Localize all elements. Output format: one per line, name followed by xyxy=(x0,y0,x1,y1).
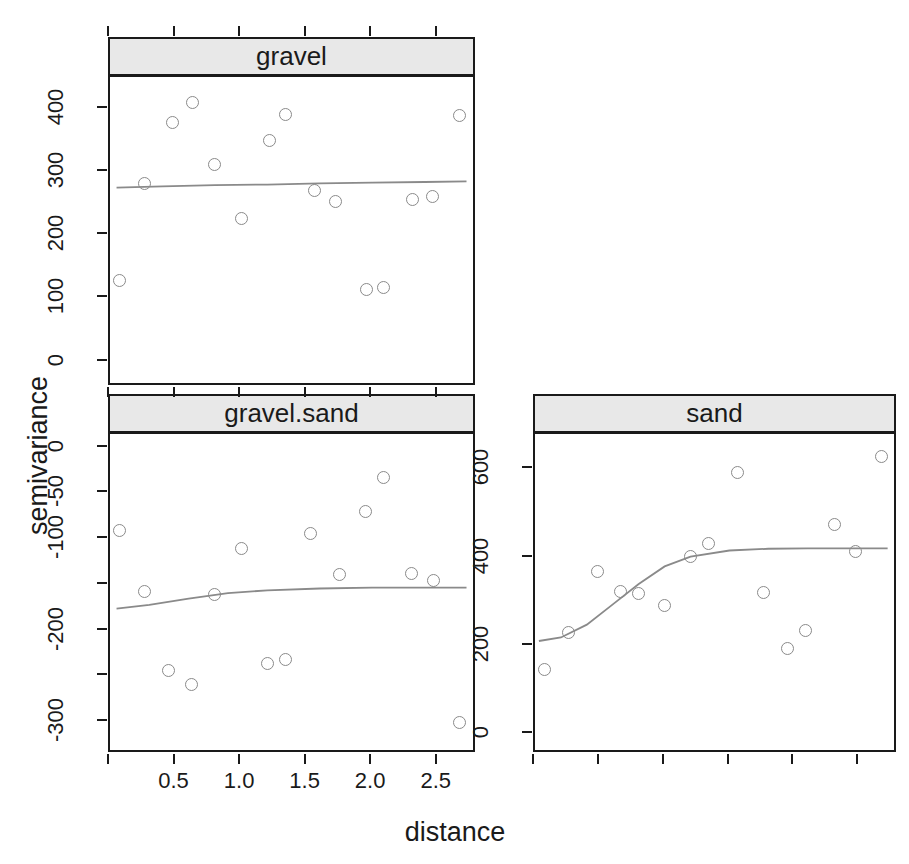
y-tick-sand xyxy=(522,731,532,733)
data-point xyxy=(138,177,151,190)
data-point xyxy=(279,108,292,121)
x-tick-gravel-sand xyxy=(238,754,240,764)
x-tick-gravel-sand xyxy=(173,754,175,764)
x-tick-sand xyxy=(856,754,858,764)
x-tick-gravel xyxy=(435,387,437,397)
y-tick-sand xyxy=(522,555,532,557)
panel-strip-label-gravel-sand: gravel.sand xyxy=(224,398,358,429)
panel-sand xyxy=(533,432,896,752)
x-tick-gravel-sand xyxy=(304,754,306,764)
x-tick-gravel-sand xyxy=(107,754,109,764)
x-tick-label: 0.5 xyxy=(149,768,199,794)
y-tick-label: 0 xyxy=(468,726,494,738)
y-tick-label: -100 xyxy=(43,515,69,559)
x-tick-label: 2.5 xyxy=(411,768,461,794)
x-tick-gravel-sand xyxy=(369,754,371,764)
plot-area-sand xyxy=(535,434,894,750)
x-tick-gravel xyxy=(238,387,240,397)
data-point xyxy=(235,212,248,225)
x-tick-gravel-sand xyxy=(435,754,437,764)
fit-line-sand xyxy=(535,434,898,754)
data-point xyxy=(377,281,390,294)
y-tick-gravel-sand xyxy=(97,445,107,447)
y-tick-label: 0 xyxy=(43,354,69,366)
data-point xyxy=(113,274,126,287)
fit-line-gravel-sand xyxy=(110,434,477,754)
data-point xyxy=(591,565,604,578)
data-point xyxy=(453,716,466,729)
x-tick-gravel xyxy=(107,387,109,397)
y-tick-gravel-sand xyxy=(97,582,107,584)
y-tick-label: 200 xyxy=(43,215,69,252)
data-point xyxy=(308,184,321,197)
x-tick-label: 1.5 xyxy=(280,768,330,794)
x-tick-label: 2.0 xyxy=(345,768,395,794)
y-tick-gravel-sand xyxy=(97,490,107,492)
y-tick-label: 400 xyxy=(43,88,69,125)
y-tick-sand xyxy=(522,643,532,645)
y-tick-gravel xyxy=(97,359,107,361)
data-point xyxy=(235,542,248,555)
x-tick-sand xyxy=(727,754,729,764)
data-point xyxy=(185,678,198,691)
data-point xyxy=(538,663,551,676)
semivariogram-figure: semivariance distance gravel gravel.sand… xyxy=(0,0,909,864)
panel-strip-gravel: gravel xyxy=(108,37,475,76)
x-axis-title: distance xyxy=(330,817,580,848)
y-tick-gravel xyxy=(97,232,107,234)
y-tick-gravel-sand xyxy=(97,673,107,675)
data-point xyxy=(426,190,439,203)
x-tick-top-gravel xyxy=(304,26,306,36)
y-tick-gravel xyxy=(97,295,107,297)
y-tick-label: 600 xyxy=(468,449,494,486)
plot-area-gravel xyxy=(110,77,473,383)
y-tick-label: 100 xyxy=(43,278,69,315)
panel-strip-label-gravel: gravel xyxy=(256,41,327,72)
panel-gravel-sand xyxy=(108,432,475,752)
x-tick-top-gravel xyxy=(238,26,240,36)
x-tick-sand xyxy=(662,754,664,764)
data-point xyxy=(562,626,575,639)
fit-line-gravel xyxy=(110,77,477,387)
data-point xyxy=(849,545,862,558)
data-point xyxy=(731,466,744,479)
y-tick-gravel xyxy=(97,106,107,108)
x-tick-sand xyxy=(791,754,793,764)
y-tick-sand xyxy=(522,466,532,468)
x-tick-top-gravel xyxy=(369,26,371,36)
x-tick-gravel xyxy=(304,387,306,397)
y-tick-gravel-sand xyxy=(97,719,107,721)
y-tick-label: 0 xyxy=(43,440,69,452)
panel-gravel xyxy=(108,75,475,385)
data-point xyxy=(757,586,770,599)
x-tick-top-gravel xyxy=(173,26,175,36)
x-tick-sand xyxy=(532,754,534,764)
panel-strip-sand: sand xyxy=(533,394,896,433)
y-tick-label: -300 xyxy=(43,698,69,742)
y-tick-gravel-sand xyxy=(97,628,107,630)
y-tick-label: 300 xyxy=(43,152,69,189)
x-tick-gravel xyxy=(173,387,175,397)
x-tick-top-gravel xyxy=(107,26,109,36)
y-tick-label: 400 xyxy=(468,537,494,574)
x-tick-gravel xyxy=(369,387,371,397)
panel-strip-gravel-sand: gravel.sand xyxy=(108,394,475,433)
y-tick-label: -50 xyxy=(43,475,69,507)
plot-area-gravel-sand xyxy=(110,434,473,750)
y-tick-gravel-sand xyxy=(97,536,107,538)
y-tick-gravel xyxy=(97,169,107,171)
y-tick-label: 200 xyxy=(468,626,494,663)
x-tick-sand xyxy=(597,754,599,764)
data-point xyxy=(261,657,274,670)
data-point xyxy=(329,195,342,208)
panel-strip-label-sand: sand xyxy=(686,398,742,429)
data-point xyxy=(684,550,697,563)
y-tick-label: -200 xyxy=(43,607,69,651)
data-point xyxy=(138,585,151,598)
x-tick-top-gravel xyxy=(435,26,437,36)
x-tick-label: 1.0 xyxy=(214,768,264,794)
data-point xyxy=(427,574,440,587)
